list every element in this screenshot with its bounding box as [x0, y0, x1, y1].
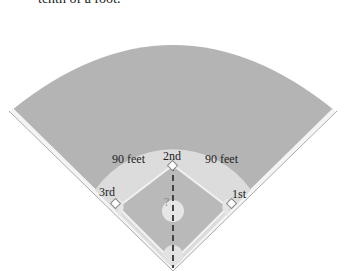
first-base-label: 1st: [232, 187, 247, 201]
second-base-label: 2nd: [163, 149, 181, 163]
left-side-label: 90 feet: [112, 152, 146, 166]
right-side-label: 90 feet: [205, 152, 239, 166]
unknown-distance-label: ?: [164, 195, 169, 209]
baseball-diamond-diagram: 2nd 1st 3rd 90 feet 90 feet ?: [0, 0, 347, 271]
third-base-label: 3rd: [99, 185, 115, 199]
